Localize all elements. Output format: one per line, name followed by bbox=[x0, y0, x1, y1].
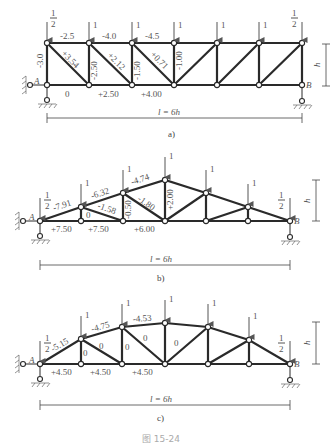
svg-text:+4.00: +4.00 bbox=[141, 89, 162, 99]
svg-text:0: 0 bbox=[65, 89, 70, 99]
svg-text:+2.50: +2.50 bbox=[98, 89, 119, 99]
svg-text:0: 0 bbox=[125, 342, 130, 352]
svg-text:2: 2 bbox=[45, 201, 50, 211]
svg-text:+0.71: +0.71 bbox=[149, 49, 171, 71]
svg-text:1: 1 bbox=[45, 333, 50, 343]
svg-text:1: 1 bbox=[279, 333, 284, 343]
svg-text:+7.50: +7.50 bbox=[88, 224, 109, 234]
svg-text:+4.50: +4.50 bbox=[51, 367, 72, 377]
svg-text:1: 1 bbox=[212, 298, 217, 308]
svg-text:1: 1 bbox=[169, 151, 174, 161]
svg-text:1: 1 bbox=[221, 20, 226, 30]
svg-text:0: 0 bbox=[174, 338, 179, 348]
svg-text:+7.50: +7.50 bbox=[51, 224, 72, 234]
svg-text:1: 1 bbox=[136, 20, 141, 30]
svg-text:b): b) bbox=[157, 273, 165, 283]
svg-text:h: h bbox=[302, 340, 312, 345]
svg-text:B: B bbox=[294, 216, 300, 226]
loads-a: 1 2 1 1 1 1 1 1 2 bbox=[47, 8, 302, 40]
svg-text:-2.5: -2.5 bbox=[60, 31, 75, 41]
svg-text:l = 6h: l = 6h bbox=[150, 254, 173, 264]
svg-text:-4.0: -4.0 bbox=[102, 31, 117, 41]
svg-text:+2.00: +2.00 bbox=[165, 189, 175, 210]
panel-c: 1 2 1 1 1 1 1 1 2 -5.15 -4.75 -4.53 +4.5… bbox=[15, 294, 320, 423]
svg-text:1: 1 bbox=[127, 164, 132, 174]
svg-text:-1.00: -1.00 bbox=[174, 51, 184, 70]
dimensions-b: l = 6h h b) bbox=[40, 180, 320, 283]
svg-text:1: 1 bbox=[51, 8, 56, 18]
svg-text:l = 6h: l = 6h bbox=[158, 107, 181, 117]
svg-text:+6.00: +6.00 bbox=[134, 224, 155, 234]
svg-text:+4.50: +4.50 bbox=[90, 367, 111, 377]
svg-text:2: 2 bbox=[292, 19, 297, 29]
svg-text:0: 0 bbox=[143, 333, 148, 343]
svg-text:1: 1 bbox=[93, 20, 98, 30]
svg-text:h: h bbox=[302, 198, 312, 203]
svg-text:1: 1 bbox=[279, 190, 284, 200]
svg-text:0: 0 bbox=[86, 210, 91, 220]
svg-text:1: 1 bbox=[126, 298, 131, 308]
svg-text:-4.53: -4.53 bbox=[132, 313, 152, 324]
svg-text:B: B bbox=[294, 359, 300, 369]
svg-text:1: 1 bbox=[85, 178, 90, 188]
svg-text:1: 1 bbox=[253, 311, 258, 321]
svg-text:h: h bbox=[312, 62, 322, 67]
svg-text:c): c) bbox=[157, 413, 164, 423]
figure-caption: 图 15-24 bbox=[142, 434, 180, 444]
svg-text:-4.5: -4.5 bbox=[145, 31, 160, 41]
svg-text:0: 0 bbox=[99, 341, 104, 351]
svg-text:1: 1 bbox=[292, 8, 297, 18]
panel-b: 1 2 1 1 1 1 1 1 2 -7.91 -6.32 -4.74 +7.5… bbox=[15, 151, 320, 283]
svg-text:1: 1 bbox=[263, 20, 268, 30]
svg-text:1: 1 bbox=[169, 294, 174, 304]
svg-text:l = 6h: l = 6h bbox=[150, 394, 173, 404]
truss-c-members bbox=[40, 323, 290, 364]
svg-text:1: 1 bbox=[210, 164, 215, 174]
svg-text:-1.50: -1.50 bbox=[132, 61, 142, 80]
svg-text:A: A bbox=[28, 355, 35, 365]
svg-text:1: 1 bbox=[85, 310, 90, 320]
svg-text:1: 1 bbox=[178, 20, 183, 30]
svg-text:-0.50: -0.50 bbox=[123, 200, 133, 219]
svg-text:1: 1 bbox=[45, 190, 50, 200]
svg-text:2: 2 bbox=[279, 201, 284, 211]
svg-text:A: A bbox=[33, 76, 40, 86]
panel-a: 1 2 1 1 1 1 1 1 2 -2.5 -4.0 -4.5 0 +2.50… bbox=[22, 8, 330, 139]
svg-text:a): a) bbox=[168, 129, 175, 139]
svg-text:-3.0: -3.0 bbox=[35, 53, 45, 68]
svg-text:+4.50: +4.50 bbox=[132, 367, 153, 377]
svg-text:2: 2 bbox=[51, 19, 56, 29]
svg-text:B: B bbox=[306, 80, 312, 90]
svg-text:1: 1 bbox=[252, 178, 257, 188]
svg-text:A: A bbox=[28, 212, 35, 222]
svg-text:-2.50: -2.50 bbox=[89, 61, 99, 80]
svg-text:0: 0 bbox=[83, 348, 88, 358]
support-a-left bbox=[22, 76, 57, 108]
truss-figure: 1 2 1 1 1 1 1 1 2 -2.5 -4.0 -4.5 0 +2.50… bbox=[0, 0, 335, 447]
svg-text:2: 2 bbox=[279, 344, 284, 354]
